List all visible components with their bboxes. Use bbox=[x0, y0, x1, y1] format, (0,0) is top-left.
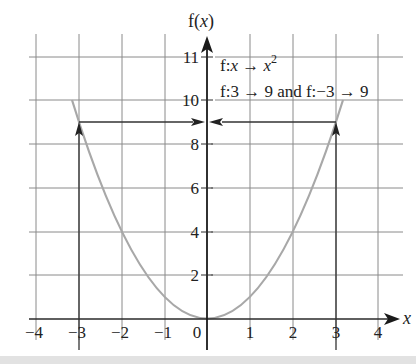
y-axis-label: f(x) bbox=[188, 11, 214, 32]
annotation-mapping-example: f:3 → 9 and f:−3 → 9 bbox=[220, 82, 368, 101]
x-tick-label: −2 bbox=[111, 323, 129, 342]
y-tick-label: 10 bbox=[182, 91, 199, 110]
x-axis-label: x bbox=[402, 308, 411, 328]
x-tick-label: −1 bbox=[154, 323, 172, 342]
y-tick-label: 2 bbox=[191, 266, 200, 285]
arrow-left-icon bbox=[209, 118, 223, 126]
x-tick-labels: −4 −3 −2 −1 0 1 2 3 4 bbox=[25, 323, 383, 342]
annotation-function-definition: f:x → x2 bbox=[220, 52, 277, 75]
y-tick-label: 8 bbox=[191, 135, 200, 154]
y-tick-labels: 11 10 8 6 4 2 bbox=[182, 48, 200, 285]
x-tick-label: 3 bbox=[332, 323, 341, 342]
y-axis bbox=[201, 36, 213, 350]
x-tick-label: 1 bbox=[246, 323, 255, 342]
y-tick-label: 4 bbox=[191, 223, 200, 242]
parabola-chart: 11 10 8 6 4 2 −4 −3 −2 −1 0 1 2 3 4 f(x)… bbox=[0, 0, 416, 364]
bottom-border bbox=[0, 356, 416, 364]
x-tick-label: 0 bbox=[193, 323, 202, 342]
y-tick-label: 6 bbox=[191, 179, 200, 198]
y-tick-label: 11 bbox=[183, 48, 199, 67]
x-tick-label: 4 bbox=[374, 323, 383, 342]
x-tick-label: −3 bbox=[68, 323, 86, 342]
arrow-right-icon bbox=[191, 118, 205, 126]
x-tick-label: 2 bbox=[289, 323, 298, 342]
x-tick-label: −4 bbox=[25, 323, 44, 342]
